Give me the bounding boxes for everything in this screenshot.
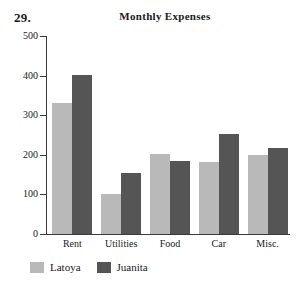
chart-legend: LatoyaJuanita xyxy=(30,262,148,273)
y-axis-tick-label: 400 xyxy=(2,71,38,81)
x-axis-tick-label: Rent xyxy=(46,238,98,249)
legend-label: Juanita xyxy=(117,262,148,273)
y-axis-tick-label: 500 xyxy=(2,31,38,41)
y-axis-tick-label: 0 xyxy=(2,229,38,239)
legend-item: Latoya xyxy=(30,262,81,273)
x-axis-tick-label: Misc. xyxy=(242,238,294,249)
legend-label: Latoya xyxy=(50,262,81,273)
y-axis-tick-label: 300 xyxy=(2,110,38,120)
chart-figure: 29. Monthly Expenses 0100200300400500 Re… xyxy=(0,0,300,294)
x-axis-labels: RentUtilitiesFoodCarMisc. xyxy=(46,0,290,294)
legend-item: Juanita xyxy=(97,262,148,273)
x-axis-tick-label: Food xyxy=(144,238,196,249)
legend-swatch xyxy=(97,262,111,273)
x-axis-tick-label: Utilities xyxy=(95,238,147,249)
y-axis-tick-label: 100 xyxy=(2,189,38,199)
legend-swatch xyxy=(30,262,44,273)
y-axis-tick-label: 200 xyxy=(2,150,38,160)
y-axis-labels: 0100200300400500 xyxy=(0,0,38,294)
x-axis-tick-label: Car xyxy=(193,238,245,249)
